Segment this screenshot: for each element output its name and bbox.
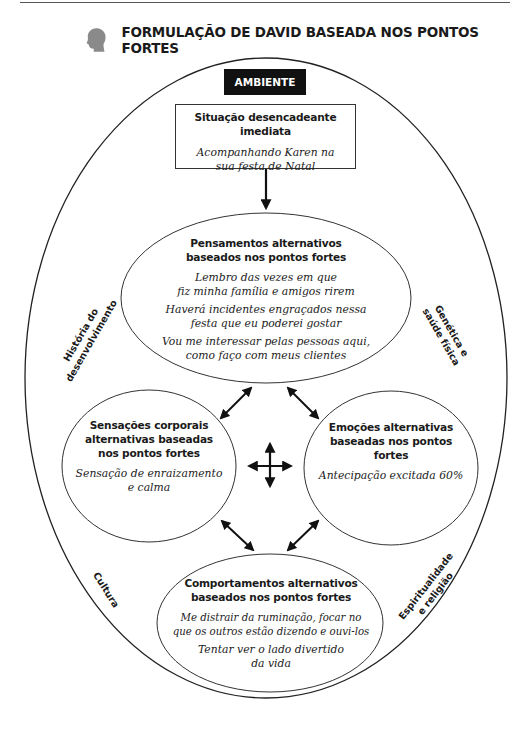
thought-item-line: fiz minha família e amigos rirem xyxy=(146,285,386,299)
arrow-emotions-behaviors xyxy=(288,521,318,550)
thought-item-line: Vou me interessar pelas pessoas aqui, xyxy=(146,335,386,349)
thought-item-line: festa que eu poderei gostar xyxy=(146,317,386,331)
body-sensations-content: Sensações corporais alternativas baseada… xyxy=(74,418,224,495)
behaviors-heading-line: baseados nos pontos fortes xyxy=(160,590,382,604)
arrow-body-behaviors xyxy=(222,521,253,550)
thought-item-line: Haverá incidentes engraçados nessa xyxy=(146,303,386,317)
arrow-thoughts-body xyxy=(221,388,251,418)
trigger-box: Situação desencadeante imediata Acompanh… xyxy=(175,104,356,169)
behavior-item-line: Tentar ver o lado divertido xyxy=(160,643,382,657)
thoughts-heading-line: baseados nos pontos fortes xyxy=(146,250,386,264)
body-text-line: e calma xyxy=(74,481,224,495)
thoughts-content: Pensamentos alternativos baseados nos po… xyxy=(146,236,386,363)
trigger-text-line: Acompanhando Karen na xyxy=(176,146,355,160)
body-text-line: Sensação de enraizamento xyxy=(74,467,224,481)
emotions-content: Emoções alternativas baseadas nos pontos… xyxy=(311,420,471,483)
trigger-text-line: sua festa de Natal xyxy=(176,160,355,174)
behavior-item-line: da vida xyxy=(160,657,382,671)
arrow-thoughts-emotions xyxy=(288,388,318,418)
four-way-arrow-icon xyxy=(249,444,291,486)
thoughts-heading-line: Pensamentos alternativos xyxy=(146,236,386,250)
body-heading-line: nos pontos fortes xyxy=(74,446,224,460)
environment-label: AMBIENTE xyxy=(224,69,306,95)
thought-item-line: como faço com meus clientes xyxy=(146,349,386,363)
emotions-heading-line: baseadas nos pontos fortes xyxy=(311,434,471,462)
body-heading-line: Sensações corporais xyxy=(74,418,224,432)
thought-item-line: Lembro das vezes em que xyxy=(146,271,386,285)
behavior-item-line: Me distrair da ruminação, focar no xyxy=(160,611,382,625)
behaviors-content: Comportamentos alternativos baseados nos… xyxy=(160,576,382,671)
behaviors-heading-line: Comportamentos alternativos xyxy=(160,576,382,590)
body-heading-line: alternativas baseadas xyxy=(74,432,224,446)
emotions-heading-line: Emoções alternativas xyxy=(311,420,471,434)
trigger-heading: Situação desencadeante imediata xyxy=(176,110,355,138)
behavior-item-line: que os outros estão dizendo e ouvi-los xyxy=(160,625,382,639)
emotions-text-line: Antecipação excitada 60% xyxy=(311,469,471,483)
